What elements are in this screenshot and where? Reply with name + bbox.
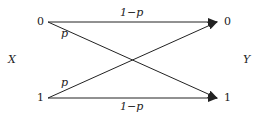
edge-label-0-0: 1−p: [120, 7, 143, 19]
edge-label-1-1: 1−p: [120, 101, 143, 113]
output-symbol-0: 0: [224, 16, 231, 28]
bsc-diagram: X Y 0 1 0 1 1−p p p 1−p: [0, 0, 264, 125]
edge-label-0-1: p: [61, 28, 68, 40]
input-label: X: [8, 54, 16, 66]
output-label: Y: [243, 54, 250, 66]
edge-label-1-0: p: [61, 77, 68, 89]
input-symbol-0: 0: [37, 16, 44, 28]
input-symbol-1: 1: [37, 92, 44, 104]
output-symbol-1: 1: [224, 92, 231, 104]
